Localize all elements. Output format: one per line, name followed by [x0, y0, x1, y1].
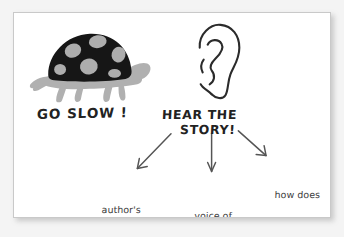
caption-line: author's [99, 205, 143, 216]
hear-the-story-line-1: HEAR THE [162, 108, 238, 122]
caption-line: how does [274, 190, 320, 201]
caption-line: voice of [191, 211, 235, 218]
text-layer: GO SLOW ! HEAR THE STORY! author's voice… [14, 13, 330, 217]
branch-authors-voice-caption: author's voice ? [98, 184, 144, 218]
hear-the-story-line-2: STORY! [180, 123, 236, 137]
screenshot-stage: GO SLOW ! HEAR THE STORY! author's voice… [0, 0, 344, 237]
branch-character-sound-caption: how does each charactr sound? [270, 169, 321, 218]
branch-narrator-voice-caption: voice of a narrator? [188, 190, 236, 218]
go-slow-label: GO SLOW ! [37, 105, 128, 122]
anchor-chart-card: GO SLOW ! HEAR THE STORY! author's voice… [13, 12, 331, 218]
